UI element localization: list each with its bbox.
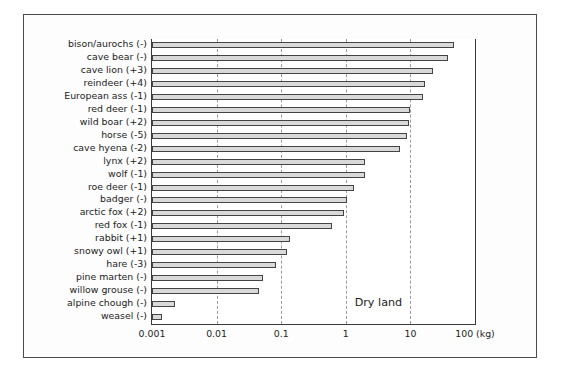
category-label: badger (-) (100, 193, 147, 205)
x-tick-label: 1 (343, 328, 349, 339)
bar (152, 133, 407, 139)
category-label: hare (-3) (106, 258, 147, 270)
bar-rows: bison/aurochs (-)cave bear (-)cave lion … (152, 39, 475, 324)
category-label: wild boar (+2) (80, 116, 147, 128)
category-label: rabbit (+1) (95, 232, 147, 244)
bar (152, 120, 409, 126)
category-label: red deer (-1) (88, 103, 147, 115)
x-tick-label: 0.001 (139, 328, 166, 339)
bar (152, 185, 354, 191)
bar (152, 107, 410, 113)
bar (152, 262, 276, 268)
category-label: willow grouse (-) (70, 284, 147, 296)
category-label: bison/aurochs (-) (68, 38, 147, 50)
bar (152, 146, 400, 152)
category-label: cave bear (-) (87, 51, 147, 63)
category-label: roe deer (-1) (88, 181, 147, 193)
x-tick-label: 10 (404, 328, 416, 339)
category-label: snowy owl (+1) (74, 245, 147, 257)
bar-row: cave lion (+3) (152, 65, 475, 77)
bar (152, 197, 347, 203)
bar-row: willow grouse (-) (152, 285, 475, 297)
dry-land-annotation: Dry land (355, 296, 403, 309)
bar-row: European ass (-1) (152, 91, 475, 103)
x-tick-label: 0.1 (274, 328, 289, 339)
category-label: cave lion (+3) (81, 64, 147, 76)
bar (152, 275, 263, 281)
category-label: horse (-5) (101, 129, 147, 141)
plot-area: bison/aurochs (-)cave bear (-)cave lion … (151, 39, 476, 325)
bar (152, 55, 448, 61)
category-label: European ass (-1) (64, 90, 147, 102)
bar-row: red deer (-1) (152, 104, 475, 116)
bar (152, 159, 365, 165)
bar (152, 68, 433, 74)
bar (152, 94, 423, 100)
category-label: cave hyena (-2) (73, 142, 147, 154)
bar-row: cave bear (-) (152, 52, 475, 64)
bar-row: pine marten (-) (152, 272, 475, 284)
bar-row: arctic fox (+2) (152, 207, 475, 219)
bar-row: wild boar (+2) (152, 117, 475, 129)
bar (152, 210, 344, 216)
figure-frame: bison/aurochs (-)cave bear (-)cave lion … (23, 14, 537, 358)
bar-row: reindeer (+4) (152, 78, 475, 90)
category-label: arctic fox (+2) (80, 206, 147, 218)
bar-row: red fox (-1) (152, 220, 475, 232)
bar-row: alpine chough (-) (152, 298, 475, 310)
bar-row: snowy owl (+1) (152, 246, 475, 258)
bar (152, 301, 175, 307)
category-label: pine marten (-) (76, 271, 147, 283)
x-tick-label: 100 (kg) (455, 328, 495, 339)
bar (152, 81, 425, 87)
bar-row: wolf (-1) (152, 169, 475, 181)
x-tick-label: 0.01 (206, 328, 227, 339)
bar-row: cave hyena (-2) (152, 143, 475, 155)
category-label: reindeer (+4) (84, 77, 147, 89)
category-label: alpine chough (-) (67, 297, 147, 309)
bar-row: bison/aurochs (-) (152, 39, 475, 51)
bar-row: roe deer (-1) (152, 182, 475, 194)
bar-row: weasel (-) (152, 311, 475, 323)
bar (152, 288, 259, 294)
bar (152, 42, 454, 48)
bar (152, 223, 332, 229)
bar-row: rabbit (+1) (152, 233, 475, 245)
category-label: red fox (-1) (95, 219, 147, 231)
bar (152, 236, 290, 242)
category-label: lynx (+2) (103, 155, 147, 167)
bar-row: horse (-5) (152, 130, 475, 142)
bar-row: lynx (+2) (152, 156, 475, 168)
bar-row: hare (-3) (152, 259, 475, 271)
bar (152, 314, 162, 320)
bar (152, 172, 365, 178)
bar-row: badger (-) (152, 194, 475, 206)
category-label: weasel (-) (101, 310, 147, 322)
category-label: wolf (-1) (108, 168, 147, 180)
bar (152, 249, 287, 255)
